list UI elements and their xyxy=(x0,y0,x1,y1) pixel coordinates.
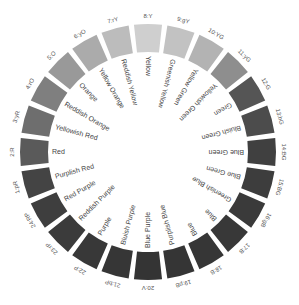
segment-swatch xyxy=(20,138,49,166)
wheel-segment: 8:YYellow xyxy=(134,13,162,77)
segment-code-label: 18:B xyxy=(209,264,223,275)
segment-code-label: 23:rP xyxy=(44,241,58,255)
segment-code-label: 1:pR xyxy=(12,180,21,194)
segment-code-label: 4:rO xyxy=(24,77,35,90)
segment-name-label: Blue Purple xyxy=(144,212,152,248)
wheel-segment: 14:BGBlue Green xyxy=(208,138,287,166)
segment-name-label: Purplish Blue xyxy=(158,204,176,246)
segment-name-label: Yellowish Red xyxy=(55,123,99,141)
segment-swatch xyxy=(163,25,194,58)
segment-code-label: 22:P xyxy=(73,264,87,275)
wheel-segment: 13:bGBluish Green xyxy=(201,106,285,142)
segment-swatch xyxy=(21,167,54,198)
wheel-segment: 9:gYGreenish Yellow xyxy=(157,16,195,110)
segment-name-label: Green xyxy=(213,102,233,118)
segment-code-label: 11:yG xyxy=(237,48,252,63)
segment-swatch xyxy=(134,24,162,53)
segment-name-label: Greenish Blue xyxy=(191,175,233,203)
segment-name-label: Purplish Red xyxy=(54,162,95,180)
segment-name-label: Red Purple xyxy=(63,179,97,203)
segment-swatch xyxy=(102,25,133,58)
segment-name-label: Blue xyxy=(185,221,198,237)
segment-swatch xyxy=(241,106,274,137)
segment-code-label: 15:BG xyxy=(275,178,285,196)
segment-code-label: 5:O xyxy=(46,50,57,61)
segment-code-label: 17:B xyxy=(238,242,251,255)
segment-code-label: 3:yR xyxy=(12,109,21,123)
segment-swatch xyxy=(241,167,274,198)
segment-code-label: 16:gB xyxy=(260,212,273,229)
segment-name-label: Blue xyxy=(203,208,218,223)
segment-swatch xyxy=(247,138,276,166)
segment-code-label: 9:gY xyxy=(177,16,190,25)
segment-code-label: 19:pB xyxy=(175,279,192,289)
wheel-segment: 20:VBlue Purple xyxy=(134,212,162,292)
segment-code-label: 21:bP xyxy=(104,279,121,289)
segment-code-label: 13:bG xyxy=(275,108,285,126)
segment-swatch xyxy=(134,251,162,280)
segment-name-label: Yellow xyxy=(145,56,152,77)
segment-name-label: Bluish Green xyxy=(201,124,242,141)
color-wheel: 8:YYellow9:gYGreenish Yellow10:YGYellow … xyxy=(0,0,299,305)
segment-code-label: 24:RP xyxy=(23,211,37,228)
segment-swatch xyxy=(102,245,133,278)
wheel-segment: 7:rYReddish Yellow xyxy=(102,16,140,107)
segment-name-label: Purple xyxy=(96,215,113,237)
segment-code-label: 6:yO xyxy=(73,28,87,40)
segment-code-label: 12:G xyxy=(260,77,272,92)
segment-name-label: Red xyxy=(52,148,65,155)
segment-swatch xyxy=(163,245,194,278)
wheel-segment: 19:pBPurplish Blue xyxy=(158,204,194,289)
segment-code-label: 14:BG xyxy=(281,143,287,160)
segment-name-label: Bluish Purple xyxy=(119,204,137,246)
segment-code-label: 7:rY xyxy=(107,16,119,25)
segment-code-label: 10:YG xyxy=(207,27,225,41)
segment-swatch xyxy=(21,106,54,137)
segment-name-label: Blue Green xyxy=(208,149,244,156)
segment-name-label: Orange xyxy=(77,81,99,103)
segment-name-label: Blue Green xyxy=(205,165,241,181)
wheel-segment: 2:RRed xyxy=(9,138,65,166)
segment-name-label: Yellow Orange xyxy=(97,67,127,110)
wheel-segment: 1:pRPurplish Red xyxy=(12,162,96,198)
segment-code-label: 8:Y xyxy=(143,13,152,19)
segment-code-label: 20:V xyxy=(142,285,154,291)
segment-code-label: 2:R xyxy=(9,147,15,157)
